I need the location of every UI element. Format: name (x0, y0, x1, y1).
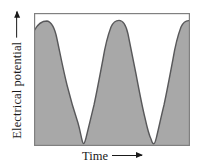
x-axis-label-text: Time (82, 150, 108, 163)
waveform-svg (34, 13, 190, 146)
up-arrow-icon (16, 12, 17, 38)
right-arrow-icon (112, 155, 142, 156)
y-axis-label-inner: Electrical potential (11, 12, 24, 139)
x-axis-label: Time (34, 147, 190, 165)
y-axis-label: Electrical potential (0, 0, 34, 150)
plot-area (34, 13, 190, 146)
chart-figure: Electrical potential Time (0, 0, 199, 165)
y-axis-label-text: Electrical potential (11, 42, 24, 139)
